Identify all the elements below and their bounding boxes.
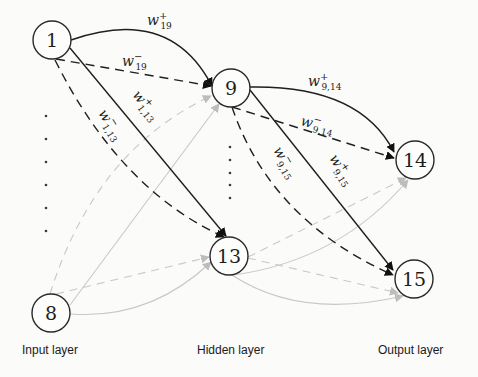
hidden-ellipsis bbox=[229, 146, 232, 200]
weight-label-w9-15-minus: w−9,15 bbox=[268, 143, 303, 183]
weight-label-w9-14-minus: w−9,14 bbox=[299, 110, 337, 139]
edge-8-13-dashed bbox=[56, 257, 209, 294]
input-layer-label: Input layer bbox=[22, 343, 78, 357]
node-9: 9 bbox=[212, 69, 250, 107]
weight-label-w1-13-plus: w+1,13 bbox=[127, 86, 164, 125]
edge-1-13-solid bbox=[70, 48, 226, 236]
output-layer-label: Output layer bbox=[378, 343, 443, 357]
weight-label-w19-plus: w+19 bbox=[147, 10, 172, 31]
weight-label-w9-14-plus: w+9,14 bbox=[308, 71, 342, 92]
node-8-label: 8 bbox=[45, 302, 57, 324]
weight-label-w9-15-plus: w+9,15 bbox=[324, 150, 360, 190]
edge-8-9-dashed bbox=[50, 96, 211, 294]
node-14: 14 bbox=[396, 141, 434, 179]
edge-8-13-solid bbox=[70, 262, 211, 315]
weight-label-w19-minus: w−19 bbox=[122, 51, 147, 72]
node-13-label: 13 bbox=[217, 245, 241, 267]
node-14-label: 14 bbox=[403, 149, 427, 171]
node-15-label: 15 bbox=[402, 268, 426, 290]
edge-13-15-dashed bbox=[248, 258, 398, 293]
node-13: 13 bbox=[210, 237, 248, 275]
node-15: 15 bbox=[395, 260, 433, 298]
node-8: 8 bbox=[32, 294, 70, 332]
weight-label-w1-13-minus: w−1,13 bbox=[93, 105, 129, 145]
network-diagram: w+19 w−19 w+1,13 w−1,13 w+9,14 w−9,14 w−… bbox=[0, 0, 478, 377]
node-1-label: 1 bbox=[46, 29, 58, 51]
edge-13-14-solid bbox=[234, 180, 408, 275]
node-1: 1 bbox=[33, 21, 71, 59]
hidden-layer-label: Hidden layer bbox=[197, 343, 264, 357]
edge-13-15-solid bbox=[232, 275, 403, 304]
node-9-label: 9 bbox=[225, 77, 237, 99]
input-ellipsis bbox=[45, 115, 48, 233]
